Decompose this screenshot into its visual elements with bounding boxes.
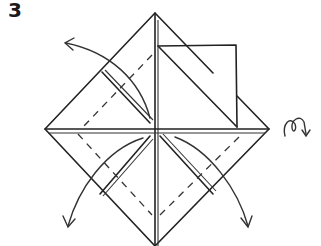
fold-arrow-lower-left — [63, 138, 143, 227]
turn-over-icon — [284, 118, 310, 136]
center-vertical-crease — [155, 14, 158, 246]
origami-diagram — [0, 0, 321, 246]
center-horizontal-crease — [45, 129, 269, 133]
